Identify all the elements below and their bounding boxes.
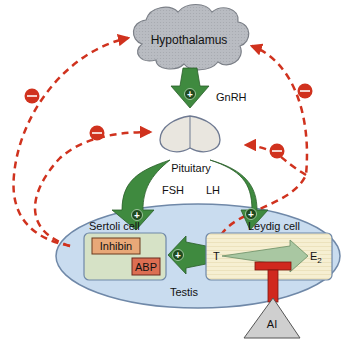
gnrh-label: GnRH <box>216 91 247 103</box>
hypothalamus-cloud: Hypothalamus <box>133 5 248 70</box>
gnrh-arrow: + GnRH <box>171 68 247 108</box>
testosterone-label: T <box>213 250 220 262</box>
abp-label: ABP <box>135 261 157 273</box>
lh-stimulate-sign: + <box>248 209 254 220</box>
sertoli-cell-label: Sertoli cell <box>89 220 140 232</box>
fsh-label: FSH <box>162 184 184 196</box>
blocker-bar <box>255 262 291 270</box>
t-sertoli-stimulate-sign: + <box>175 250 181 261</box>
hypothalamus-label: Hypothalamus <box>151 33 228 47</box>
inhibin-label: Inhibin <box>100 240 132 252</box>
leydig-cell-label: Leydig cell <box>248 220 300 232</box>
lh-label: LH <box>206 184 220 196</box>
inhibit-badge-inner-right <box>270 144 285 159</box>
inhibit-badge-outer-right <box>298 84 313 99</box>
testis-label: Testis <box>170 286 199 298</box>
pituitary-gland: Pituitary <box>160 116 220 174</box>
hpg-axis-diagram: Hypothalamus + GnRH Pituitary + FSH + LH… <box>0 0 347 345</box>
inhibit-badge-inner-left <box>90 126 105 141</box>
pituitary-label: Pituitary <box>171 162 211 174</box>
inhibit-badge-outer-left <box>25 89 40 104</box>
ai-label: AI <box>267 318 277 330</box>
gnrh-stimulate-sign: + <box>187 89 193 100</box>
